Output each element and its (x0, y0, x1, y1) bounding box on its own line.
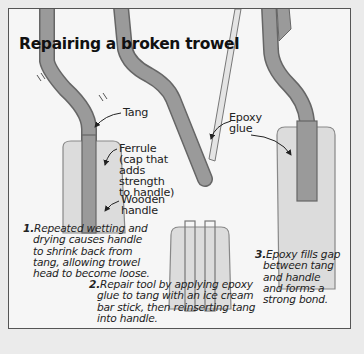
step-1-caption: 1.Repeated wetting and drying causes han… (23, 223, 150, 279)
label-wooden-handle: Wooden handle (121, 194, 165, 216)
step-3-caption: 3.Epoxy fills gap between tang and handl… (255, 249, 340, 305)
diagram-title: Repairing a broken trowel (19, 35, 239, 53)
label-ferrule: Ferrule (cap that adds strength to handl… (119, 143, 174, 198)
label-epoxy-glue: Epoxy glue (229, 112, 262, 134)
step-2-caption: 2.Repair tool by applying epoxy glue to … (89, 279, 255, 324)
diagram-panel: Repairing a broken trowel Tang Ferrule (… (8, 8, 351, 329)
label-tang: Tang (123, 107, 148, 118)
